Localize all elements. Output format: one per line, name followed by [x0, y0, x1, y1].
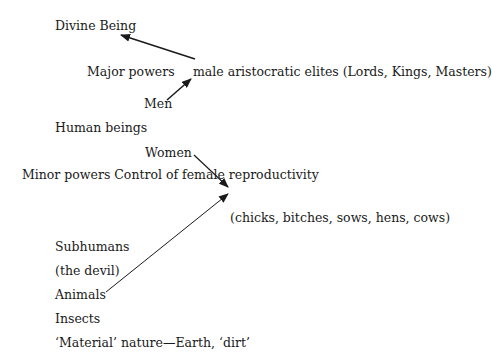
arrow-men-to-elites: [167, 79, 191, 100]
arrow-animals-to-animal-terms: [106, 194, 228, 292]
arrow-women-to-animal-terms: [194, 155, 228, 187]
arrow-elites-to-divine: [121, 35, 195, 59]
